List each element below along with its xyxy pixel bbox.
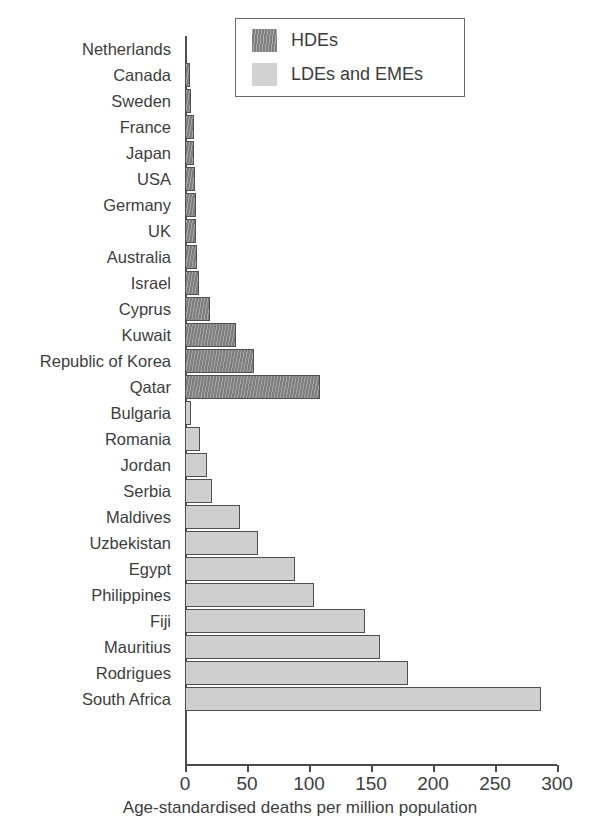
bars-container <box>185 36 557 764</box>
y-axis-label: Netherlands <box>0 36 178 62</box>
bar <box>185 245 197 269</box>
y-axis-label: Japan <box>0 140 178 166</box>
bar <box>185 609 365 633</box>
y-axis-label: Canada <box>0 62 178 88</box>
bar <box>185 401 191 425</box>
y-axis-label: Egypt <box>0 556 178 582</box>
bar <box>185 271 199 295</box>
y-axis-label: UK <box>0 218 178 244</box>
x-axis-tick-label: 250 <box>479 773 511 795</box>
x-axis-tick-label: 200 <box>417 773 449 795</box>
bar-row <box>185 426 557 452</box>
bar <box>185 687 541 711</box>
y-axis-label: Israel <box>0 270 178 296</box>
bar <box>185 219 196 243</box>
y-axis-label: France <box>0 114 178 140</box>
tick-mark <box>309 765 311 772</box>
bar <box>185 557 295 581</box>
y-axis-label: Jordan <box>0 452 178 478</box>
tick-mark <box>433 765 435 772</box>
y-axis-label: Serbia <box>0 478 178 504</box>
tick-mark <box>495 765 497 772</box>
legend: HDEs LDEs and EMEs <box>235 18 465 97</box>
bar-row <box>185 686 557 712</box>
y-axis-label: Mauritius <box>0 634 178 660</box>
bar <box>185 635 380 659</box>
y-axis-label: Uzbekistan <box>0 530 178 556</box>
bar <box>185 349 254 373</box>
y-axis-label: Sweden <box>0 88 178 114</box>
legend-item-hdes: HDEs <box>252 29 338 52</box>
bar <box>185 193 196 217</box>
bar-row <box>185 452 557 478</box>
bar-row <box>185 322 557 348</box>
y-axis-label: Rodrigues <box>0 660 178 686</box>
y-axis-label: South Africa <box>0 686 178 712</box>
bar-row <box>185 218 557 244</box>
y-axis-label: Qatar <box>0 374 178 400</box>
bar <box>185 479 212 503</box>
legend-item-ldes-emes: LDEs and EMEs <box>252 63 423 86</box>
bar-row <box>185 244 557 270</box>
bar-row <box>185 478 557 504</box>
bar <box>185 63 190 87</box>
bar-row <box>185 556 557 582</box>
bar-row <box>185 608 557 634</box>
legend-label-ldes-emes: LDEs and EMEs <box>291 64 423 85</box>
x-axis-tick-label: 300 <box>541 773 573 795</box>
legend-label-hdes: HDEs <box>291 30 338 51</box>
x-axis-tick-label: 0 <box>180 773 191 795</box>
tick-mark <box>247 765 249 772</box>
y-axis-category-labels: NetherlandsCanadaSwedenFranceJapanUSAGer… <box>0 36 178 764</box>
bar <box>185 505 240 529</box>
bar-row <box>185 504 557 530</box>
bar-row <box>185 400 557 426</box>
bar-row <box>185 634 557 660</box>
bar <box>185 427 200 451</box>
legend-swatch-hdes-icon <box>252 29 277 52</box>
bar-row <box>185 296 557 322</box>
y-axis-label: Romania <box>0 426 178 452</box>
bar-row <box>185 140 557 166</box>
y-axis-label: Bulgaria <box>0 400 178 426</box>
x-axis-tick-label: 150 <box>355 773 387 795</box>
bar <box>185 297 210 321</box>
bar <box>185 167 195 191</box>
bar-row <box>185 582 557 608</box>
bar <box>185 531 258 555</box>
x-axis-tick-label: 50 <box>236 773 257 795</box>
bar <box>185 375 320 399</box>
bar <box>185 89 191 113</box>
x-axis-tick-label: 100 <box>293 773 325 795</box>
bar <box>185 115 194 139</box>
tick-mark <box>185 765 187 772</box>
bar-row <box>185 192 557 218</box>
y-axis-label: Fiji <box>0 608 178 634</box>
bar-chart: NetherlandsCanadaSwedenFranceJapanUSAGer… <box>0 0 600 824</box>
bar <box>185 453 207 477</box>
tick-mark <box>371 765 373 772</box>
y-axis-label: Kuwait <box>0 322 178 348</box>
y-axis-label: USA <box>0 166 178 192</box>
bar <box>185 661 408 685</box>
bar <box>185 583 314 607</box>
y-axis-label: Maldives <box>0 504 178 530</box>
bar <box>185 37 187 61</box>
bar-row <box>185 348 557 374</box>
bar-row <box>185 530 557 556</box>
tick-mark <box>557 765 559 772</box>
y-axis-label: Republic of Korea <box>0 348 178 374</box>
y-axis-label: Germany <box>0 192 178 218</box>
x-axis-title: Age-standardised deaths per million popu… <box>0 798 600 818</box>
y-axis-label: Australia <box>0 244 178 270</box>
bar <box>185 323 236 347</box>
bar-row <box>185 166 557 192</box>
bar-row <box>185 270 557 296</box>
y-axis-label: Cyprus <box>0 296 178 322</box>
plot-area <box>185 36 557 764</box>
bar-row <box>185 114 557 140</box>
legend-swatch-ldes-emes-icon <box>252 63 277 86</box>
bar <box>185 141 194 165</box>
bar-row <box>185 660 557 686</box>
y-axis-label: Philippines <box>0 582 178 608</box>
